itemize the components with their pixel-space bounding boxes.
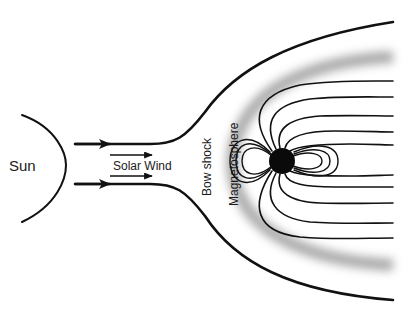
field-line	[285, 131, 393, 148]
field-line	[293, 153, 322, 169]
solar-wind-label: Solar Wind	[113, 159, 172, 173]
field-line	[279, 174, 393, 203]
earth	[269, 148, 295, 174]
magnetosphere-diagram: Sun Solar Wind Bow shock Magnetosphere	[0, 0, 413, 318]
field-line	[270, 173, 393, 223]
field-line	[294, 146, 338, 176]
nightside-closed-loops	[293, 146, 338, 176]
bow-shock-label: Bow shock	[200, 137, 214, 196]
magnetosheath-band	[232, 57, 393, 265]
sun-label: Sun	[9, 157, 36, 174]
magnetosphere-label: Magnetosphere	[227, 122, 241, 206]
diagram-canvas: Sun Solar Wind Bow shock Magnetosphere	[0, 0, 413, 318]
